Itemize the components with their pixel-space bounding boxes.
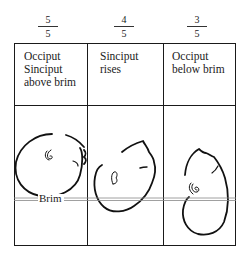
fetal-head-icon-1 (16, 134, 86, 197)
fetal-head-drawings (0, 0, 247, 257)
brim-label: Brim (39, 192, 62, 205)
fetal-head-icon-3 (183, 149, 228, 235)
